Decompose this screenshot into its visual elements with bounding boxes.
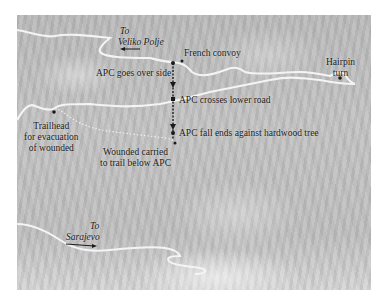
label-wounded-line1: Wounded carried [100, 147, 171, 158]
label-apc-fall-ends: APC fall ends against hardwood tree [179, 128, 319, 139]
arrow-down-icon [170, 124, 176, 130]
point-marker-icon [181, 60, 184, 63]
point-marker-icon [171, 61, 175, 65]
label-hairpin-line2: turn [326, 68, 355, 79]
point-marker-icon [174, 142, 177, 145]
road-to-sarajevo [17, 224, 205, 274]
label-sarajevo-to: To [90, 221, 99, 232]
label-veliko-polje-to: To [120, 26, 129, 37]
point-marker-icon [171, 131, 175, 135]
label-hairpin-turn: Hairpin turn [326, 57, 355, 79]
label-apc-crosses-lower-road: APC crosses lower road [179, 95, 271, 106]
label-apc-goes-over-side: APC goes over side [96, 68, 171, 79]
label-trailhead: Trailhead for evacuation of wounded [24, 121, 79, 154]
point-marker-icon [171, 97, 175, 101]
label-french-convoy: French convoy [184, 48, 241, 59]
label-wounded-carried: Wounded carried to trail below APC [100, 147, 171, 169]
label-veliko-polje: Veliko Polje [118, 37, 164, 48]
label-wounded-line2: to trail below APC [100, 158, 171, 169]
label-trailhead-line3: of wounded [24, 143, 79, 154]
arrow-down-icon [170, 82, 176, 88]
label-trailhead-line2: for evacuation [24, 132, 79, 143]
point-marker-icon [52, 110, 56, 114]
label-hairpin-line1: Hairpin [326, 57, 355, 68]
label-trailhead-line1: Trailhead [24, 121, 79, 132]
label-sarajevo: Sarajevo [66, 232, 100, 243]
